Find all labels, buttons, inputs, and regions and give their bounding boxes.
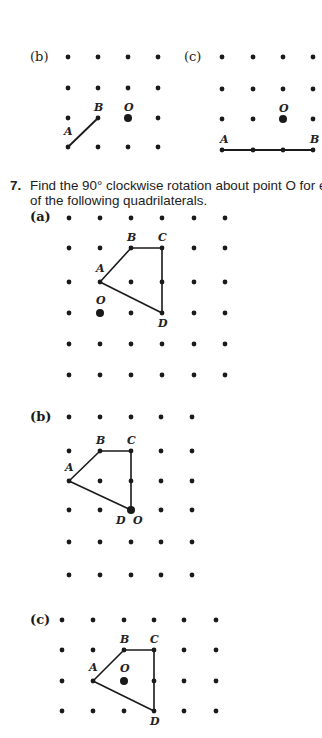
problem7-c-label-a: A <box>88 661 98 674</box>
problem7-c-grid-dot <box>182 618 187 623</box>
problem7-a-grid-dot <box>192 311 197 316</box>
problem7-c-grid-dot <box>60 709 65 714</box>
problem7-b-grid-dot <box>67 573 72 578</box>
problem6-c-grid-dot <box>220 87 225 92</box>
problem7-a-grid-dot <box>192 216 197 221</box>
problem6-c-grid-dot <box>311 87 316 92</box>
problem7-a-grid-dot <box>98 280 103 285</box>
problem7-b-grid-dot <box>190 479 195 484</box>
problem6-c-grid-dot <box>220 148 225 153</box>
problem7-a-label-a: A <box>95 262 105 275</box>
problem6-b-grid-dot <box>66 116 71 121</box>
problem7-c-grid-dot <box>152 709 157 714</box>
problem6-b-grid-dot <box>126 86 131 91</box>
problem7-c-grid-dot <box>182 679 187 684</box>
problem6-b-grid-dot <box>156 116 161 121</box>
problem6-b-grid-dot <box>126 145 131 150</box>
problem7-a-label-d: D <box>157 317 168 330</box>
problem7-a-grid-dot <box>160 311 165 316</box>
problem7-c-grid-dot <box>152 618 157 623</box>
problem7-a-grid-dot <box>192 373 197 378</box>
problem7-a-grid-dot <box>129 373 134 378</box>
problem7-b-grid-dot <box>159 573 164 578</box>
problem7-a-grid-dot <box>129 216 134 221</box>
problem7-a-grid-dot <box>223 280 228 285</box>
problem6-b-grid-dot <box>66 55 71 60</box>
problem6-b-grid-dot <box>126 55 131 60</box>
problem7-b-grid-dot <box>129 449 134 454</box>
problem7-a-grid-dot <box>160 342 165 347</box>
problem7-c-grid-dot <box>182 648 187 653</box>
problem7-c-label-o: O <box>120 662 130 675</box>
problem7-b-grid-dot <box>190 449 195 454</box>
problem7-c-grid-dot <box>91 648 96 653</box>
problem6-b-grid-dot <box>96 145 101 150</box>
problem6-c-grid-dot <box>311 55 316 60</box>
problem7-c-label-b: B <box>119 633 129 646</box>
problem6-b-grid-dot <box>156 86 161 91</box>
problem7-c-grid-dot <box>91 709 96 714</box>
problem7-a-grid-dot <box>129 342 134 347</box>
problem7-b-label-c: C <box>127 434 136 447</box>
problem7-c-grid-dot <box>152 679 157 684</box>
problem7-a-label-c: C <box>158 231 167 244</box>
problem7-b-grid-dot <box>98 479 103 484</box>
problem7-b-grid-dot <box>159 449 164 454</box>
problem6-b-grid-dot <box>66 86 71 91</box>
problem7-a-grid-dot <box>129 311 134 316</box>
problem7-a-grid-dot <box>223 216 228 221</box>
problem7-a-grid-dot <box>223 311 228 316</box>
problem7-c-grid-dot <box>122 618 127 623</box>
problem7-a-grid-dot <box>67 216 72 221</box>
problem6-b-grid-dot <box>96 86 101 91</box>
problem7-b-grid-dot <box>98 573 103 578</box>
problem7-a-grid-dot <box>192 280 197 285</box>
problem6-c-grid-dot <box>251 148 256 153</box>
problem6-c-grid-dot <box>281 55 286 60</box>
problem7-c-center-point-o <box>120 677 128 685</box>
problem7-c-grid-dot <box>91 679 96 684</box>
problem7-c-grid-dot <box>214 709 219 714</box>
problem7-a-grid-dot <box>67 311 72 316</box>
problem7-c-grid-dot <box>214 618 219 623</box>
problem7-b-grid-dot <box>129 540 134 545</box>
problem6-b-grid-dot <box>156 145 161 150</box>
problem6-b-grid-dot <box>96 116 101 121</box>
problem7-a-grid-dot <box>160 216 165 221</box>
problem6-c-grid-dot <box>220 117 225 122</box>
problem7-b-grid-dot <box>129 573 134 578</box>
problem7-a-grid-dot <box>67 280 72 285</box>
problem7-a-grid-dot <box>223 342 228 347</box>
problem7-b-grid-dot <box>67 479 72 484</box>
problem7-b-grid-dot <box>159 540 164 545</box>
problem6-c-label-a: A <box>219 133 229 146</box>
problem6-c-label-o: O <box>279 102 289 115</box>
problem7-b-grid-dot <box>190 573 195 578</box>
problem7-c-grid-dot <box>60 648 65 653</box>
problem7-b-grid-dot <box>129 479 134 484</box>
problem7-b-label-d: D <box>115 514 126 527</box>
problem6-b-label-b: B <box>93 101 103 114</box>
problem7-c-grid-dot <box>214 648 219 653</box>
problem7-a-grid-dot <box>160 373 165 378</box>
problem7-a-grid-dot <box>192 246 197 251</box>
problem6-b-label-a: A <box>63 125 73 138</box>
problem6-b-grid-dot <box>66 145 71 150</box>
problem7-a-grid-dot <box>67 373 72 378</box>
problem7-c-grid-dot <box>152 648 157 653</box>
problem7-b-grid-dot <box>98 449 103 454</box>
problem7-b-grid-dot <box>98 415 103 420</box>
problem7-b-grid-dot <box>67 449 72 454</box>
problem6-b-label-o: O <box>124 101 134 114</box>
problem6-c-grid-dot <box>281 87 286 92</box>
problem7-c-grid-dot <box>60 618 65 623</box>
problem7-b-grid-dot <box>159 415 164 420</box>
problem6-c-label-b: B <box>309 133 319 146</box>
problem7-c-label-d: D <box>149 715 160 728</box>
problem6-b-grid-dot <box>156 55 161 60</box>
problem6-c-grid-dot <box>311 148 316 153</box>
problem6-c-grid-dot <box>311 117 316 122</box>
problem7-b-label-a: A <box>64 461 74 474</box>
problem7-b-grid-dot <box>67 508 72 513</box>
problem7-a-grid-dot <box>223 373 228 378</box>
